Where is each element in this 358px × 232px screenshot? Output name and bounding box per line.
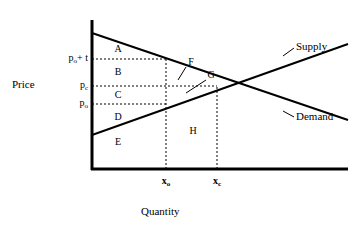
y-tick-p0t-subscript: o [74,57,78,65]
x-tick-x0-subscript: o [167,180,171,188]
y-tick-pc-subscript: c [85,84,88,92]
leader-line-f [178,67,186,80]
y-tick-label-pc: pc [50,80,88,90]
region-label-b: B [111,67,125,77]
x-tick-x0-base: x [162,175,167,186]
demand-curve-label: Demand [296,111,333,122]
region-label-h: H [186,126,200,136]
region-label-c: C [111,90,125,100]
price-axis-title: Price [12,79,35,90]
region-label-a: A [111,44,125,54]
region-label-f: F [184,57,198,67]
quantity-axis-title: Quantity [141,206,180,217]
y-tick-p0-base: p [80,97,85,108]
y-tick-p0-subscript: o [85,102,89,110]
demand-label-leader [283,111,294,117]
supply-demand-diagram: Price Quantity Supply Demand po+ t pc po… [0,0,358,232]
region-label-g: G [204,70,218,80]
y-tick-p0t-suffix: + t [77,52,88,63]
curve-label-leaders [283,48,294,117]
region-label-d: D [111,112,125,122]
x-tick-label-x0: xo [152,176,180,186]
y-tick-p0t-base: p [69,52,74,63]
x-tick-xc-subscript: c [218,180,221,188]
y-tick-label-p0: po [50,98,88,108]
supply-label-leader [283,48,294,56]
supply-curve-label: Supply [296,41,327,52]
region-label-e: E [111,137,125,147]
y-tick-label-p0-plus-t: po+ t [50,53,88,63]
x-tick-label-xc: xc [203,176,231,186]
